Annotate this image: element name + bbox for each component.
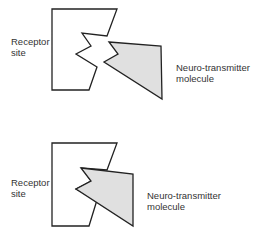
- receptor-label: Receptor site: [11, 177, 50, 199]
- label-line: Receptor: [11, 177, 50, 188]
- molecule-label: Neuro-transmitter molecule: [147, 190, 221, 212]
- receptor-label: Receptor site: [11, 36, 50, 58]
- label-line: site: [11, 188, 50, 199]
- neurotransmitter-molecule-shape: [104, 42, 162, 99]
- receptor-site-shape: [52, 9, 117, 90]
- molecule-label: Neuro-transmitter molecule: [176, 62, 250, 84]
- label-line: Neuro-transmitter: [176, 62, 250, 73]
- label-line: molecule: [176, 73, 250, 84]
- label-line: Receptor: [11, 36, 50, 47]
- panel-unbound: [52, 9, 162, 99]
- label-line: site: [11, 47, 50, 58]
- panel-bound: [52, 143, 133, 226]
- label-line: molecule: [147, 201, 221, 212]
- label-line: Neuro-transmitter: [147, 190, 221, 201]
